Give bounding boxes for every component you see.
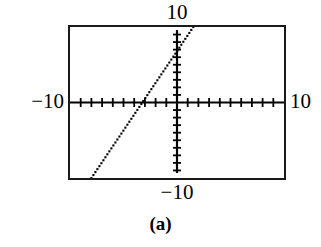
figure-container: 10 −10 10 −10 (a) <box>0 0 321 247</box>
y-min-label: −10 <box>68 182 286 203</box>
plot-area <box>70 27 284 178</box>
graph-svg <box>70 27 284 178</box>
x-max-label: 10 <box>290 91 311 112</box>
y-max-label: 10 <box>68 2 286 23</box>
figure-caption: (a) <box>0 213 321 235</box>
graph-viewing-window <box>68 25 286 180</box>
x-min-label: −10 <box>8 91 64 112</box>
